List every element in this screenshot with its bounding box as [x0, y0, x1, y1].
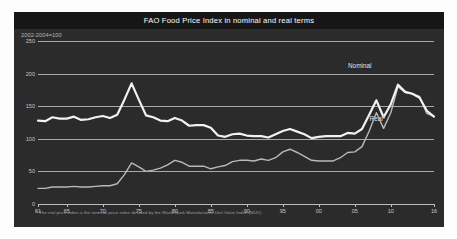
- x-tick: [211, 204, 212, 207]
- series-line-real: [38, 83, 434, 138]
- x-tick: [283, 204, 284, 207]
- y-tick-label: 50: [29, 168, 35, 174]
- y-tick-label: 100: [26, 136, 35, 142]
- plot-area: 050100150200250 616570758085909500051016…: [38, 41, 434, 204]
- y-tick-label: 0: [32, 201, 35, 207]
- y-tick-label: 150: [26, 103, 35, 109]
- series-label-nominal: Nominal: [348, 62, 371, 69]
- chart-panel: FAO Food Price Index in nominal and real…: [14, 12, 444, 227]
- x-tick: [139, 204, 140, 207]
- chart-title: FAO Food Price Index in nominal and real…: [144, 16, 314, 25]
- x-tick: [247, 204, 248, 207]
- x-tick: [355, 204, 356, 207]
- x-tick: [67, 204, 68, 207]
- chart-footnote: * The real price index is the nominal pr…: [36, 210, 436, 215]
- screenshot-root: FAO Food Price Index in nominal and real…: [0, 0, 457, 239]
- y-tick-label: 250: [26, 38, 35, 44]
- x-tick: [434, 204, 435, 207]
- x-tick: [175, 204, 176, 207]
- x-tick: [391, 204, 392, 207]
- x-tick: [38, 204, 39, 207]
- chart-title-band: FAO Food Price Index in nominal and real…: [14, 12, 444, 29]
- x-axis-line: [38, 204, 434, 205]
- x-tick: [319, 204, 320, 207]
- x-tick: [103, 204, 104, 207]
- series-lines: [38, 41, 434, 204]
- series-label-real: Real*: [370, 115, 386, 122]
- y-tick-label: 200: [26, 71, 35, 77]
